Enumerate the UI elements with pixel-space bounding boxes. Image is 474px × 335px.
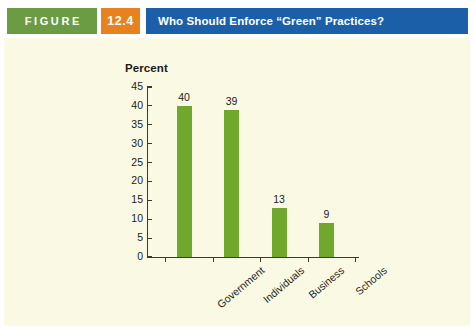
y-tick-label-wrap: 45 [113,80,147,81]
y-tick-label-wrap: 35 [113,118,147,119]
y-tick-label: 15 [115,193,143,205]
figure-label-box: FIGURE [7,8,97,34]
y-axis-line [147,87,148,257]
chart-panel: Percent 454035302520151050 4039139 Gover… [4,38,470,326]
x-tick-mark [165,257,166,262]
y-tick-label: 25 [115,156,143,168]
x-tick-mark [355,257,356,262]
y-tick-mark [147,181,152,182]
figure-label-text: FIGURE [22,15,82,27]
x-tick-mark [213,257,214,262]
x-category-label: Business [306,264,346,301]
y-tick-label-wrap: 5 [113,231,147,232]
y-tick-mark [147,124,152,125]
y-tick-label-wrap: 10 [113,212,147,213]
y-tick-mark [147,200,152,201]
x-category-label: Individuals [260,264,306,305]
bar-value-label: 40 [169,91,199,103]
y-tick-mark [147,162,152,163]
bar-value-label: 13 [264,193,294,205]
y-tick-label: 20 [115,174,143,186]
y-tick-mark [147,105,152,106]
y-tick-label: 40 [115,99,143,111]
x-tick-mark [308,257,309,262]
y-tick-label-wrap: 40 [113,99,147,100]
bar-value-label: 9 [312,208,342,220]
bar-value-label: 39 [217,95,247,107]
y-tick-label: 0 [115,250,143,262]
x-tick-mark [260,257,261,262]
figure-number-box: 12.4 [101,8,140,34]
figure-root: FIGURE 12.4 Who Should Enforce “Green” P… [0,0,474,335]
bar [224,110,239,257]
figure-title-bar: Who Should Enforce “Green” Practices? [146,8,468,34]
y-tick-label: 10 [115,212,143,224]
y-tick-label: 5 [115,231,143,243]
y-tick-label-wrap: 30 [113,137,147,138]
bar [319,223,334,257]
y-tick-label: 30 [115,137,143,149]
figure-number-text: 12.4 [107,14,134,28]
x-category-label: Schools [352,264,388,297]
y-tick-label: 45 [115,80,143,92]
figure-title-text: Who Should Enforce “Green” Practices? [146,15,384,27]
y-tick-mark [147,143,152,144]
y-tick-mark [147,256,152,257]
bar [177,106,192,257]
y-tick-label-wrap: 15 [113,193,147,194]
y-axis-title: Percent [125,62,168,74]
bar-chart: Percent 454035302520151050 4039139 Gover… [4,38,470,326]
y-tick-mark [147,219,152,220]
bar [272,208,287,257]
y-tick-label: 35 [115,118,143,130]
y-tick-mark [147,86,152,87]
figure-header: FIGURE 12.4 Who Should Enforce “Green” P… [0,0,474,42]
y-tick-label-wrap: 0 [113,250,147,251]
y-tick-mark [147,238,152,239]
y-tick-label-wrap: 20 [113,174,147,175]
y-tick-label-wrap: 25 [113,156,147,157]
x-category-label: Government [215,264,267,310]
